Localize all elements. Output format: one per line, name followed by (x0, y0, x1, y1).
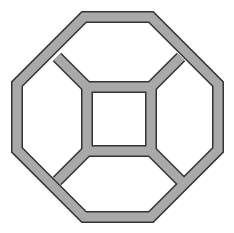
inner-square (87, 87, 151, 151)
outer-octagon (17, 17, 218, 217)
connector-bar (151, 151, 181, 181)
octagon-diagram (0, 0, 234, 233)
inner-square (87, 87, 151, 151)
connector-bar (57, 57, 87, 87)
connector-bar (57, 151, 87, 181)
connector-bar (151, 57, 181, 87)
diagram-outline (17, 17, 218, 217)
